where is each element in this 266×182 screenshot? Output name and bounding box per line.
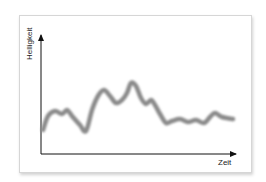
x-axis-label: Zeit [218,158,231,167]
chart-plot [0,0,266,182]
brightness-curve [43,83,233,132]
y-axis-label: Helligkeit [25,28,34,60]
